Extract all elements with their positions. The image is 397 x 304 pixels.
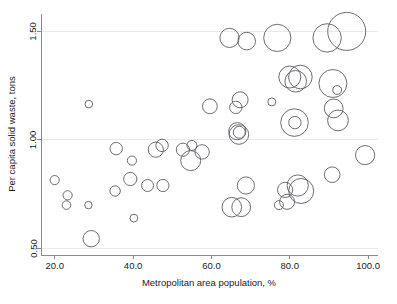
x-tick-label: 80.0 (281, 260, 300, 271)
x-tick-label: 100.0 (356, 260, 380, 271)
x-tick-label: 40.0 (124, 260, 143, 271)
x-tick-label: 60.0 (202, 260, 221, 271)
scatter-plot-canvas: 20.040.060.080.0100.0 0.501.001.50 Metro… (0, 0, 397, 304)
x-tick-label: 20.0 (45, 260, 64, 271)
y-tick-label: 1.50 (28, 22, 39, 41)
bubble-chart-figure: 20.040.060.080.0100.0 0.501.001.50 Metro… (0, 0, 397, 304)
x-axis-title: Metropolitan area population, % (142, 277, 277, 288)
plot-area-background (41, 14, 378, 255)
y-tick-label: 0.50 (28, 239, 39, 258)
y-tick-label: 1.00 (28, 131, 39, 150)
y-axis-title: Per capita solid waste, tons (6, 76, 17, 192)
